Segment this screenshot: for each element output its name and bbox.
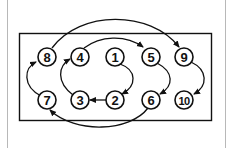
bolt-2: 2 [106, 91, 124, 109]
arrow-1-to-2 [120, 64, 133, 94]
bolt-10: 10 [175, 91, 193, 109]
bolt-6: 6 [142, 91, 160, 109]
bolt-9: 9 [175, 48, 193, 66]
bolt-3: 3 [71, 91, 89, 109]
bolt-7: 7 [38, 91, 56, 109]
arrow-6-to-7 [50, 108, 148, 127]
bolt-label: 8 [43, 50, 50, 65]
bolt-label: 7 [43, 93, 50, 108]
arrow-4-to-5 [84, 38, 143, 48]
arrow-7-to-8 [27, 62, 41, 96]
bolt-4: 4 [71, 48, 89, 66]
bolt-label: 6 [147, 93, 154, 108]
bolt-label: 5 [147, 50, 154, 65]
arrow-5-to-6 [157, 63, 170, 94]
bolt-5: 5 [142, 48, 160, 66]
arrow-3-to-4 [61, 59, 73, 95]
arrow-9-to-10 [191, 62, 204, 94]
bolt-sequence-diagram: 8 4 1 5 9 7 3 2 6 10 [0, 0, 232, 148]
sequence-arrows [27, 19, 204, 127]
bolt-label: 10 [178, 95, 190, 107]
bolt-1: 1 [106, 48, 124, 66]
bolt-8: 8 [38, 48, 56, 66]
bolt-label: 3 [76, 93, 83, 108]
bolt-label: 1 [111, 50, 118, 65]
bolt-label: 2 [111, 93, 118, 108]
bolt-label: 9 [180, 50, 187, 65]
bolt-label: 4 [76, 50, 84, 65]
